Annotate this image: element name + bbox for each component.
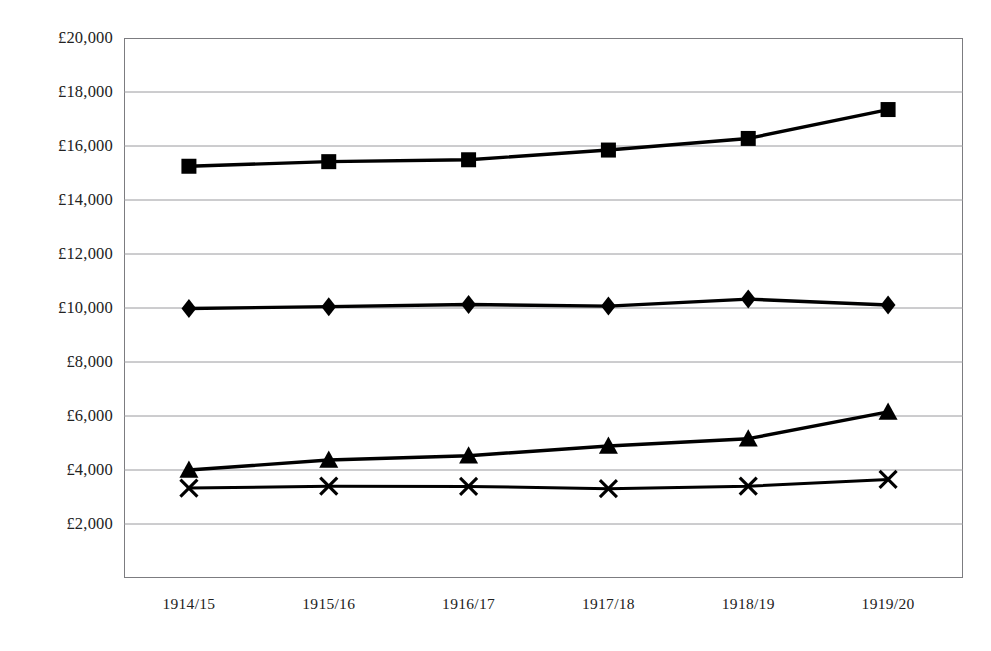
x-axis-tick-label: 1914/15 (109, 596, 269, 612)
x-axis-tick-label: 1916/17 (389, 596, 549, 612)
line-chart: £20,000£18,000£16,000£14,000£12,000£10,0… (0, 0, 991, 651)
x-axis-tick-label: 1918/19 (668, 596, 828, 612)
x-axis-tick-label: 1919/20 (808, 596, 968, 612)
x-axis-tick-label: 1915/16 (249, 596, 409, 612)
x-axis-tick-label: 1917/18 (528, 596, 688, 612)
x-axis-labels: 1914/151915/161916/171917/181918/191919/… (0, 0, 991, 651)
